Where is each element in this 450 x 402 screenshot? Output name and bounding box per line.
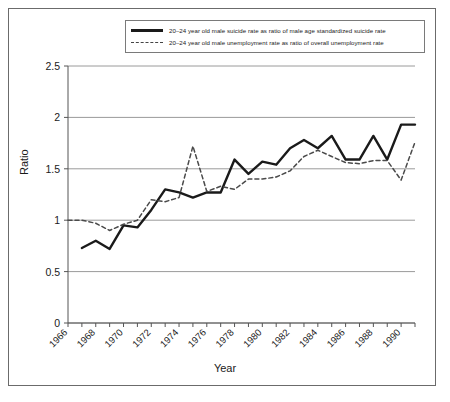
chart-svg: 00.511.522.51966196819701972197419761978… [0, 0, 450, 402]
dashed-line-key [130, 38, 164, 47]
legend-item-unemployment: 20–24 year old male unemployment rate as… [130, 37, 420, 48]
plot-area: 00.511.522.51966196819701972197419761978… [0, 0, 450, 402]
x-tick-label: 1986 [324, 327, 347, 350]
legend-label-unemployment: 20–24 year old male unemployment rate as… [169, 39, 384, 47]
y-tick-label: 2 [54, 111, 60, 123]
x-tick-label: 1972 [130, 327, 153, 350]
y-tick-label: 2.5 [45, 60, 60, 72]
x-tick-label: 1990 [380, 327, 403, 350]
x-tick-label: 1982 [269, 327, 292, 350]
solid-line-key [130, 26, 164, 35]
y-tick-label: 1.5 [45, 163, 60, 175]
chart-legend: 20–24 year old male suicide rate as rati… [125, 20, 425, 53]
legend-label-suicide: 20–24 year old male suicide rate as rati… [169, 27, 386, 35]
x-tick-label: 1980 [241, 327, 264, 350]
x-tick-label: 1970 [102, 327, 125, 350]
x-tick-label: 1974 [158, 327, 181, 350]
legend-item-suicide: 20–24 year old male suicide rate as rati… [130, 25, 420, 36]
chart-figure: 00.511.522.51966196819701972197419761978… [0, 0, 450, 402]
x-tick-label: 1978 [213, 327, 236, 350]
x-axis-title: Year [0, 362, 450, 374]
x-tick-label: 1966 [47, 327, 70, 350]
y-tick-label: 1 [54, 214, 60, 226]
x-tick-label: 1988 [352, 327, 375, 350]
y-tick-label: 0 [54, 317, 60, 329]
series-suicide-line [82, 125, 415, 249]
x-tick-label: 1984 [297, 327, 320, 350]
y-tick-label: 0.5 [45, 266, 60, 278]
x-tick-label: 1976 [185, 327, 208, 350]
y-axis-title: Ratio [18, 149, 30, 175]
x-tick-label: 1968 [74, 327, 97, 350]
